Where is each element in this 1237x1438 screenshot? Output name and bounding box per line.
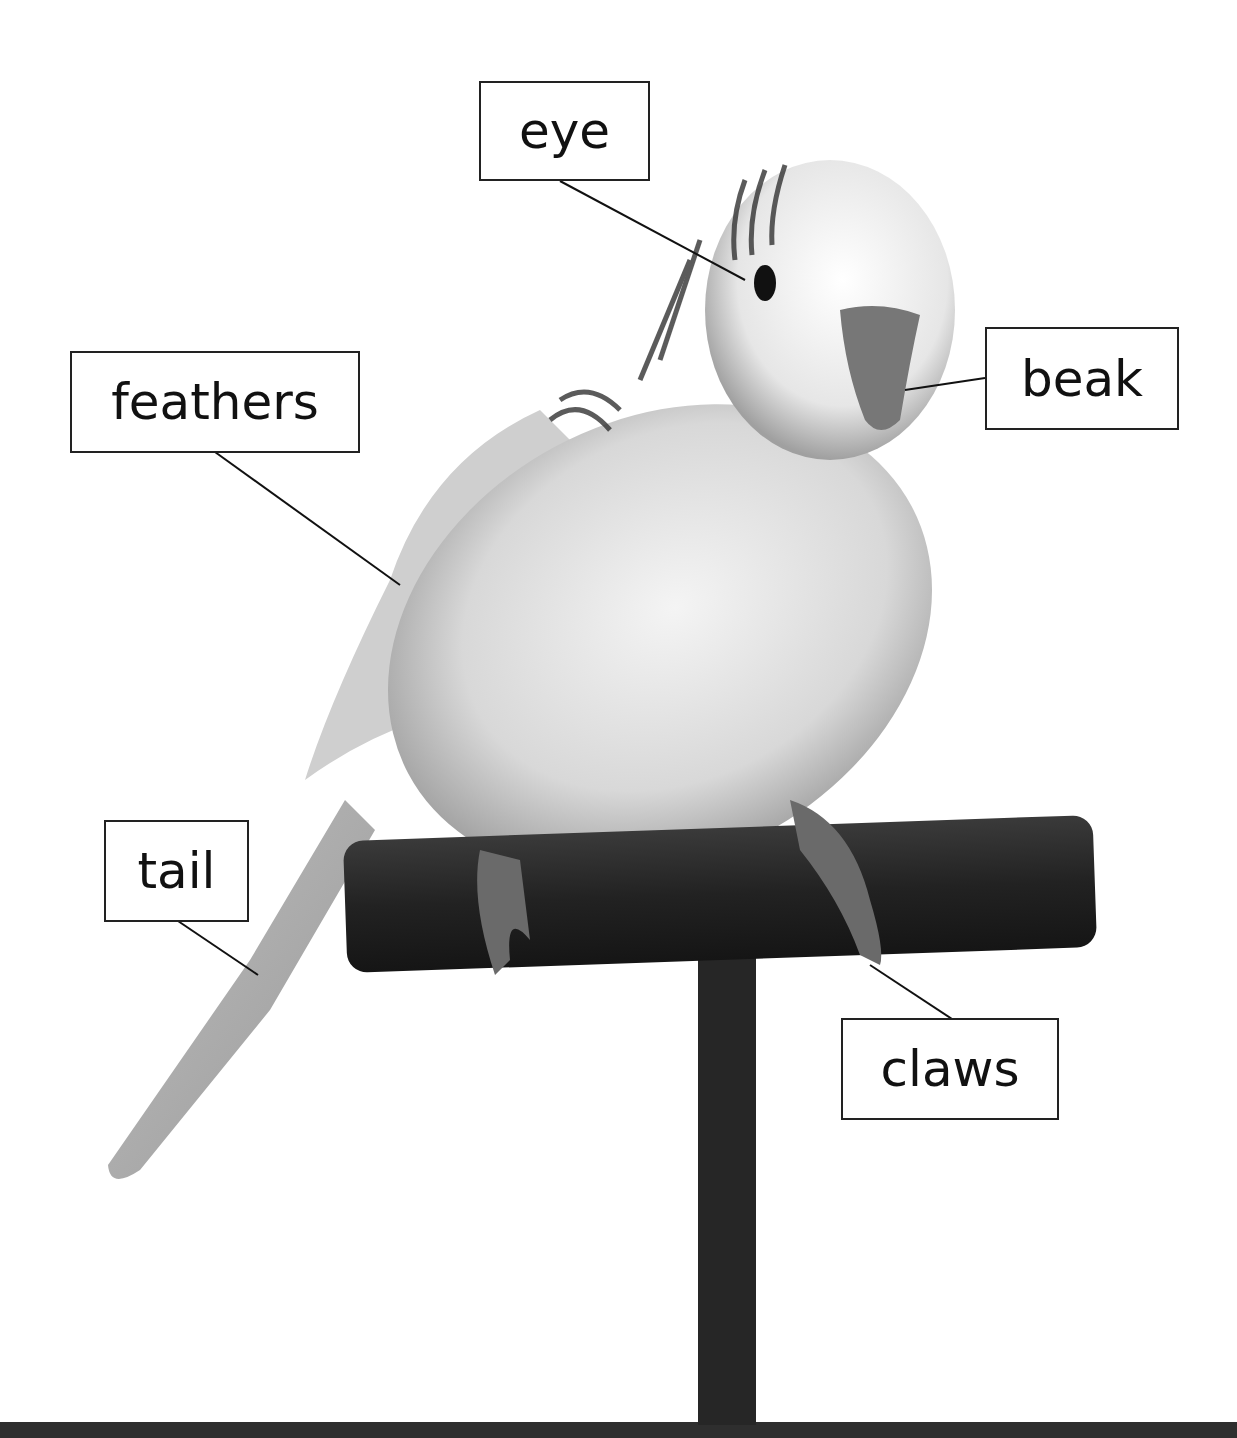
eye-shape	[754, 265, 776, 301]
head-shape	[705, 160, 955, 460]
label-eye: eye	[479, 81, 650, 181]
perch-bar	[343, 815, 1097, 973]
label-beak: beak	[985, 327, 1179, 430]
label-claws: claws	[841, 1018, 1059, 1120]
tail-leader-line	[178, 921, 258, 975]
label-eye-text: eye	[519, 106, 610, 156]
label-tail-text: tail	[137, 846, 215, 896]
ground-bar	[0, 1422, 1237, 1438]
stand-pole	[698, 945, 756, 1425]
eye-leader-line	[560, 181, 745, 280]
labelled-bird-diagram: eye beak feathers tail claws	[0, 0, 1237, 1438]
feathers-leader-line	[215, 452, 400, 585]
label-beak-text: beak	[1021, 354, 1143, 404]
label-tail: tail	[104, 820, 249, 922]
label-claws-text: claws	[881, 1044, 1020, 1094]
budgie-photo	[0, 0, 1237, 1438]
claws-leader-line	[870, 965, 952, 1019]
label-feathers-text: feathers	[111, 377, 319, 427]
label-feathers: feathers	[70, 351, 360, 453]
